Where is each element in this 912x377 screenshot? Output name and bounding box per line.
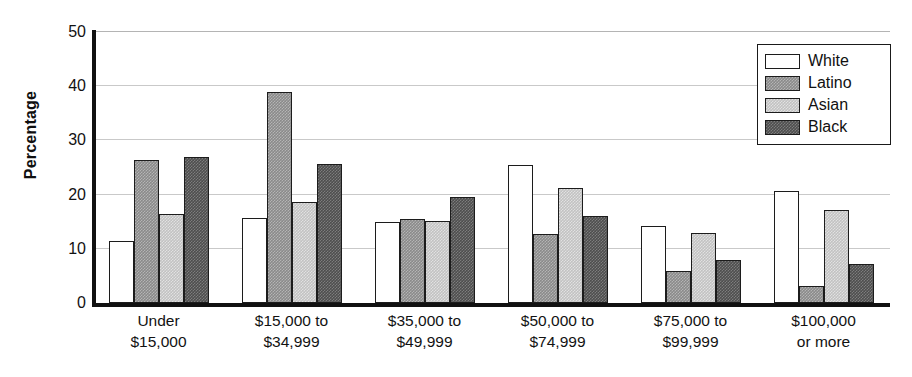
- x-axis-tick-label: $50,000 to$74,999: [491, 310, 624, 352]
- bar: [375, 222, 400, 303]
- bar: [450, 197, 475, 303]
- bar: [400, 219, 425, 303]
- x-axis-line: [92, 303, 890, 307]
- y-axis-tick-label: 40: [52, 77, 86, 95]
- legend-swatch-asian: [765, 98, 800, 113]
- x-axis-tick-label-line2: $49,999: [358, 331, 491, 352]
- x-axis-tick-label: Under$15,000: [92, 310, 225, 352]
- y-axis-line: [92, 30, 96, 305]
- y-axis-tick-label: 30: [52, 131, 86, 149]
- bar: [425, 221, 450, 303]
- legend-label: Black: [808, 118, 847, 136]
- x-axis-tick-labels: Under$15,000$15,000 to$34,999$35,000 to$…: [92, 310, 890, 374]
- x-axis-tick-label-line2: $74,999: [491, 331, 624, 352]
- x-axis-tick-label: $75,000 to$99,999: [624, 310, 757, 352]
- bar-chart: Percentage 01020304050 Under$15,000$15,0…: [0, 0, 912, 377]
- legend-item[interactable]: Latino: [765, 72, 883, 94]
- x-axis-tick-label-line1: Under: [137, 312, 179, 329]
- y-axis-tick-label: 10: [52, 240, 86, 258]
- bar: [716, 260, 741, 303]
- x-axis-tick-label-line1: $75,000 to: [654, 312, 727, 329]
- bar: [799, 286, 824, 303]
- x-axis-tick-label-line2: $99,999: [624, 331, 757, 352]
- legend: WhiteLatinoAsianBlack: [757, 44, 891, 145]
- bar: [317, 164, 342, 303]
- bar: [242, 218, 267, 303]
- bar-group: [624, 32, 757, 303]
- x-axis-tick-label-line2: or more: [757, 331, 890, 352]
- y-axis-tick-label: 50: [52, 23, 86, 41]
- legend-label: White: [808, 52, 849, 70]
- y-axis-tick-label: 0: [52, 294, 86, 312]
- legend-item[interactable]: Black: [765, 116, 883, 138]
- bar-group: [225, 32, 358, 303]
- bar: [583, 216, 608, 303]
- bar: [508, 165, 533, 303]
- y-axis-tick-label: 20: [52, 186, 86, 204]
- x-axis-tick-label-line1: $15,000 to: [255, 312, 328, 329]
- bar: [292, 202, 317, 303]
- x-axis-tick-label-line1: $35,000 to: [388, 312, 461, 329]
- legend-item[interactable]: White: [765, 50, 883, 72]
- legend-label: Asian: [808, 96, 848, 114]
- bar-group: [358, 32, 491, 303]
- bar: [533, 234, 558, 303]
- bar-group: [491, 32, 624, 303]
- x-axis-tick-label: $35,000 to$49,999: [358, 310, 491, 352]
- legend-swatch-black: [765, 120, 800, 135]
- bar: [849, 264, 874, 303]
- x-axis-tick-label-line1: $100,000: [791, 312, 856, 329]
- x-axis-tick-label-line1: $50,000 to: [521, 312, 594, 329]
- bar: [159, 214, 184, 303]
- legend-swatch-latino: [765, 76, 800, 91]
- bar: [267, 92, 292, 303]
- legend-item[interactable]: Asian: [765, 94, 883, 116]
- x-axis-tick-label-line2: $15,000: [92, 331, 225, 352]
- bar: [109, 241, 134, 303]
- bar: [134, 160, 159, 303]
- bar: [184, 157, 209, 303]
- legend-label: Latino: [808, 74, 852, 92]
- bar: [641, 226, 666, 304]
- legend-swatch-white: [765, 54, 800, 69]
- y-axis-title: Percentage: [22, 40, 40, 230]
- bar: [774, 191, 799, 303]
- bar-group: [92, 32, 225, 303]
- bar: [666, 271, 691, 303]
- x-axis-tick-label: $100,000or more: [757, 310, 890, 352]
- x-axis-tick-label: $15,000 to$34,999: [225, 310, 358, 352]
- bar: [558, 188, 583, 303]
- bar: [824, 210, 849, 303]
- bar: [691, 233, 716, 303]
- y-axis-tick-labels: 01020304050: [46, 32, 86, 303]
- x-axis-tick-label-line2: $34,999: [225, 331, 358, 352]
